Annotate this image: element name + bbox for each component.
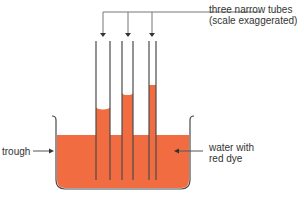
trough-arrow — [33, 149, 54, 154]
tubes-label-line2: (scale exaggerated) — [209, 15, 297, 26]
tube-wide — [96, 41, 110, 180]
water-label-line1: water with — [209, 142, 254, 153]
arrowhead-icons — [100, 33, 155, 37]
water-label: water with red dye — [209, 142, 254, 164]
tube-medium — [122, 41, 133, 180]
trough-label: trough — [2, 146, 30, 157]
tubes-label: three narrow tubes (scale exaggerated) — [209, 4, 297, 26]
tubes-label-line1: three narrow tubes — [209, 4, 297, 15]
water-label-line2: red dye — [209, 153, 254, 164]
capillary-diagram — [0, 0, 304, 199]
tube-narrow — [149, 41, 156, 180]
